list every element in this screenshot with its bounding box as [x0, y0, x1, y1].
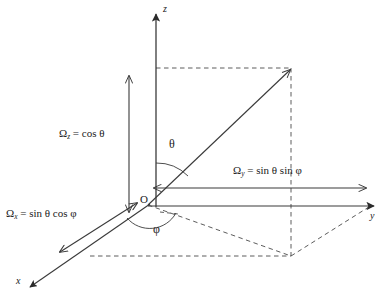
x-axis-label: x — [16, 276, 20, 286]
theta-angle-label: θ — [169, 138, 175, 150]
omega-x-equation: Ωx = sin θ cos φ — [6, 208, 77, 220]
omega-x-expression: sin θ cos φ — [29, 207, 76, 219]
omega-z-symbol: Ω — [59, 127, 67, 139]
direction-cosines-diagram: z y x O θ φ Ωz = cos θ Ωx = sin θ cos φ … — [0, 0, 389, 305]
diagram-canvas — [0, 0, 389, 305]
omega-z-expression: cos θ — [82, 127, 105, 139]
omega-z-equals: = — [73, 127, 79, 139]
z-axis-label: z — [163, 4, 167, 14]
omega-x-symbol: Ω — [6, 207, 14, 219]
omega-x-equals: = — [20, 207, 26, 219]
vector-ground-projection-dashed — [160, 212, 178, 214]
omega-y-subscript: y — [241, 169, 244, 178]
origin-label: O — [140, 194, 148, 205]
y-axis-label: y — [370, 211, 374, 221]
omega-x-subscript: x — [14, 212, 17, 221]
omega-y-expression: sin θ sin φ — [256, 164, 302, 176]
omega-y-symbol: Ω — [233, 164, 241, 176]
omega-y-equation: Ωy = sin θ sin φ — [233, 165, 302, 177]
base-plane-dashed-outline — [90, 205, 372, 256]
phi-angle-label: φ — [153, 223, 160, 235]
projection-dashed-lines — [156, 68, 291, 256]
theta-arc — [156, 163, 188, 176]
omega-z-subscript: z — [67, 132, 70, 141]
omega-y-equals: = — [247, 164, 253, 176]
base-plane-right-edge — [291, 205, 372, 256]
omega-z-equation: Ωz = cos θ — [59, 128, 105, 140]
